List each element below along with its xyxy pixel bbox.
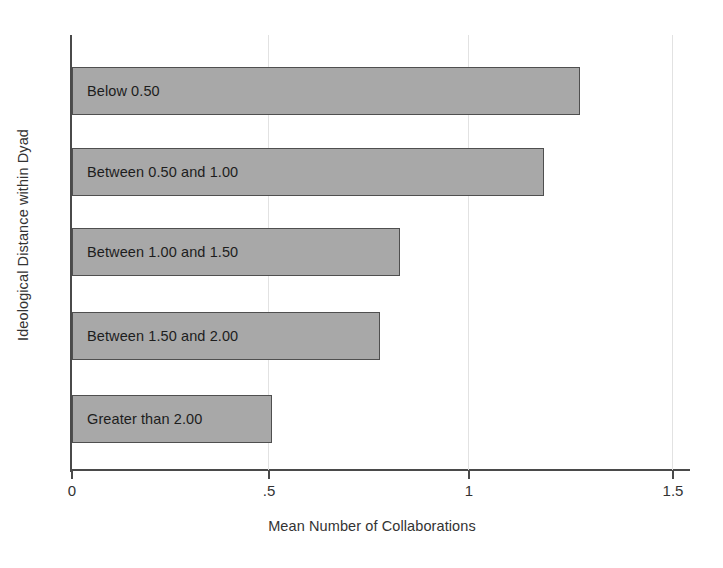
x-tick-label-1: 1 bbox=[465, 482, 473, 499]
gridline-1.5 bbox=[672, 35, 673, 470]
bar-between-1.50-and-2.00: Between 1.50 and 2.00 bbox=[72, 312, 380, 360]
x-tick-mark-0.5 bbox=[268, 470, 270, 479]
bar-label: Between 1.00 and 1.50 bbox=[87, 244, 238, 260]
x-tick-label-0: 0 bbox=[68, 482, 76, 499]
bar-between-0.50-and-1.00: Between 0.50 and 1.00 bbox=[72, 148, 544, 196]
bar-between-1.00-and-1.50: Between 1.00 and 1.50 bbox=[72, 228, 400, 276]
y-axis-title: Ideological Distance within Dyad bbox=[0, 0, 46, 470]
x-tick-label-1.5: 1.5 bbox=[663, 482, 684, 499]
bar-label: Greater than 2.00 bbox=[87, 411, 202, 427]
y-axis-title-text: Ideological Distance within Dyad bbox=[15, 129, 31, 341]
x-tick-mark-1 bbox=[468, 470, 470, 479]
bar-greater-than-2.00: Greater than 2.00 bbox=[72, 395, 272, 443]
bar-below-0.50: Below 0.50 bbox=[72, 67, 580, 115]
bar-label: Below 0.50 bbox=[87, 83, 160, 99]
bar-label: Between 1.50 and 2.00 bbox=[87, 328, 238, 344]
plot-area: Below 0.50 Between 0.50 and 1.00 Between… bbox=[72, 35, 690, 470]
x-tick-label-0.5: .5 bbox=[263, 482, 276, 499]
bar-chart: Ideological Distance within Dyad Below 0… bbox=[0, 0, 723, 568]
bar-label: Between 0.50 and 1.00 bbox=[87, 164, 238, 180]
x-tick-mark-0 bbox=[71, 470, 73, 479]
x-axis-title: Mean Number of Collaborations bbox=[72, 518, 672, 534]
x-tick-mark-1.5 bbox=[672, 470, 674, 479]
